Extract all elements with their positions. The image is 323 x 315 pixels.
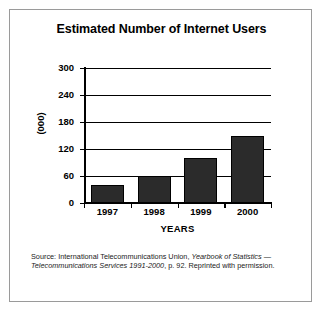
source-italic-title-two: Telecommunications Services 1991-2000 [31,261,164,270]
y-tick-label: 60 [40,171,74,181]
gridline [84,95,271,96]
x-tick-label: 1997 [84,206,130,217]
bar [91,185,124,203]
chart-title: Estimated Number of Internet Users [0,22,323,36]
x-axis-title: YEARS [84,223,271,234]
bar [184,158,217,203]
source-italic-title-one: Yearbook of Statistics [192,252,262,261]
y-tick-mark [80,68,85,69]
bar [138,176,171,203]
y-tick-label: 120 [40,144,74,154]
source-note: Source: International Telecommunications… [31,252,293,271]
x-tick-label: 2000 [225,206,271,217]
y-tick-mark [80,95,85,96]
source-prefix: Source: International Telecommunications… [31,252,192,261]
gridline [84,68,271,69]
chart-figure: Estimated Number of Internet Users (000)… [0,0,323,315]
y-tick-mark [80,122,85,123]
gridline [84,122,271,123]
bar [231,136,264,204]
x-tick-label: 1999 [178,206,224,217]
y-tick-mark [80,149,85,150]
y-tick-label: 180 [40,117,74,127]
x-tick-mark [271,203,272,208]
y-tick-label: 0 [40,198,74,208]
y-tick-label: 300 [40,63,74,73]
x-tick-label: 1998 [131,206,177,217]
y-tick-label: 240 [40,90,74,100]
y-tick-mark [80,176,85,177]
source-suffix: , p. 92. Reprinted with permission. [164,261,274,270]
y-axis-line [84,67,86,204]
source-dash: — [264,252,271,261]
